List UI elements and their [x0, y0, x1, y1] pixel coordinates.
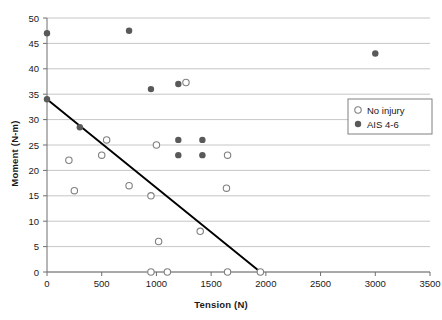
x-tick-label: 3500: [419, 278, 440, 289]
y-tick-label: 35: [28, 89, 39, 100]
data-point: [148, 193, 154, 199]
data-point: [153, 142, 159, 148]
series-no-injury: [66, 79, 264, 275]
y-tick-label: 5: [34, 241, 39, 252]
data-point: [199, 137, 205, 143]
data-point: [183, 79, 189, 85]
data-point: [148, 86, 154, 92]
data-point: [103, 137, 109, 143]
x-tick-label: 1500: [201, 278, 222, 289]
y-tick-label: 0: [34, 267, 39, 278]
legend-marker-1: [355, 107, 361, 113]
data-point: [164, 269, 170, 275]
scatter-chart: 0500100015002000250030003500 05101520253…: [0, 0, 442, 320]
legend-label: No injury: [367, 105, 405, 116]
data-point: [197, 228, 203, 234]
x-tick-label: 3000: [365, 278, 386, 289]
data-point: [126, 28, 132, 34]
y-tick-marks: [43, 18, 47, 272]
data-point: [44, 30, 50, 36]
data-point: [224, 152, 230, 158]
y-tick-label: 30: [28, 114, 39, 125]
y-tick-label: 10: [28, 216, 39, 227]
x-axis-title: Tension (N): [0, 299, 442, 310]
data-point: [223, 185, 229, 191]
x-tick-label: 500: [94, 278, 110, 289]
y-axis-title: Moment (N-m): [9, 94, 20, 214]
data-point: [99, 152, 105, 158]
data-point: [71, 188, 77, 194]
data-point: [199, 152, 205, 158]
y-tick-label: 15: [28, 190, 39, 201]
plot-area: 0500100015002000250030003500 05101520253…: [0, 0, 442, 320]
series-ais-4-6: [44, 28, 379, 159]
data-point: [126, 182, 132, 188]
data-point: [257, 269, 263, 275]
y-tick-labels: 05101520253035404550: [28, 13, 39, 278]
data-point: [175, 137, 181, 143]
data-point: [175, 152, 181, 158]
data-point: [148, 269, 154, 275]
x-tick-label: 2000: [255, 278, 276, 289]
data-point: [44, 96, 50, 102]
data-point: [77, 124, 83, 130]
y-tick-label: 50: [28, 13, 39, 24]
y-tick-label: 45: [28, 38, 39, 49]
x-tick-label: 0: [44, 278, 49, 289]
legend: No injuryAIS 4-6: [348, 99, 432, 134]
legend-label: AIS 4-6: [367, 119, 399, 130]
data-point: [372, 50, 378, 56]
data-point: [66, 157, 72, 163]
legend-marker-2: [355, 121, 361, 127]
x-tick-label: 2500: [310, 278, 331, 289]
x-tick-label: 1000: [146, 278, 167, 289]
x-tick-marks: [47, 272, 430, 276]
data-point: [155, 238, 161, 244]
data-point: [224, 269, 230, 275]
data-point: [175, 81, 181, 87]
y-tick-label: 40: [28, 63, 39, 74]
x-tick-labels: 0500100015002000250030003500: [44, 278, 440, 289]
y-tick-label: 25: [28, 140, 39, 151]
y-tick-label: 20: [28, 165, 39, 176]
